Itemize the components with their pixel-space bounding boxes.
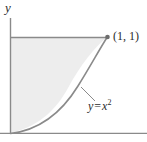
shaded-region bbox=[11, 38, 108, 134]
figure-graphic bbox=[0, 0, 147, 142]
figure-container: y (1, 1) y=x2 bbox=[0, 0, 147, 142]
curve-equation-label: y=x2 bbox=[88, 100, 111, 112]
point-coordinate-label: (1, 1) bbox=[113, 30, 139, 42]
equation-exponent: 2 bbox=[107, 98, 111, 107]
y-axis-label: y bbox=[5, 1, 11, 14]
point-marker-1-1 bbox=[105, 35, 110, 40]
equation-operator: = bbox=[93, 99, 102, 113]
